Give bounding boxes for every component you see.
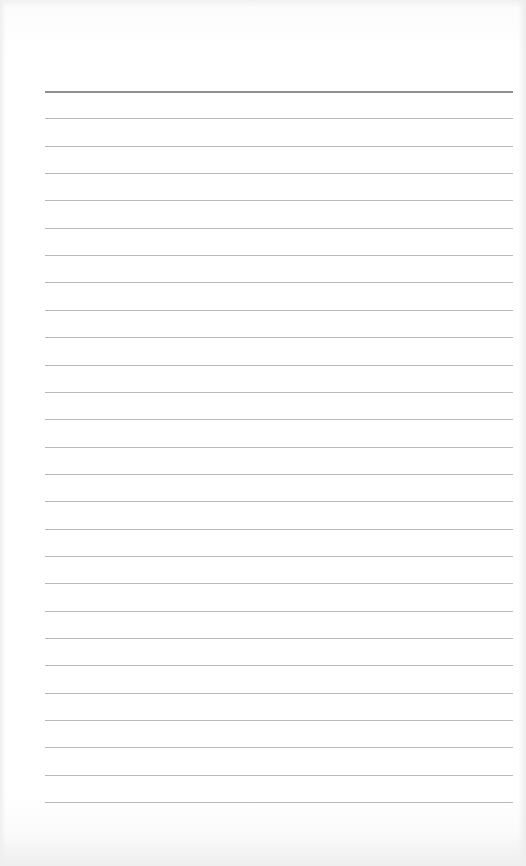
header-rule-line (45, 91, 513, 93)
rule-line (45, 720, 513, 721)
rule-line (45, 419, 513, 420)
rule-line (45, 611, 513, 612)
rule-line (45, 556, 513, 557)
rule-line (45, 146, 513, 147)
rule-line (45, 173, 513, 174)
rule-line (45, 802, 513, 803)
rule-line (45, 693, 513, 694)
rule-line (45, 228, 513, 229)
rule-line (45, 392, 513, 393)
paper-edge-left (0, 0, 6, 866)
rule-line (45, 282, 513, 283)
rule-line (45, 365, 513, 366)
rule-line (45, 583, 513, 584)
rule-line (45, 474, 513, 475)
rule-line (45, 118, 513, 119)
rule-line (45, 310, 513, 311)
rule-line (45, 775, 513, 776)
rule-line (45, 529, 513, 530)
paper-edge-right (518, 0, 526, 866)
ruled-lines (45, 0, 513, 866)
rule-line (45, 255, 513, 256)
rule-line (45, 337, 513, 338)
lined-paper-page (0, 0, 526, 866)
rule-line (45, 638, 513, 639)
rule-line (45, 200, 513, 201)
rule-line (45, 665, 513, 666)
rule-line (45, 747, 513, 748)
rule-line (45, 447, 513, 448)
rule-line (45, 501, 513, 502)
